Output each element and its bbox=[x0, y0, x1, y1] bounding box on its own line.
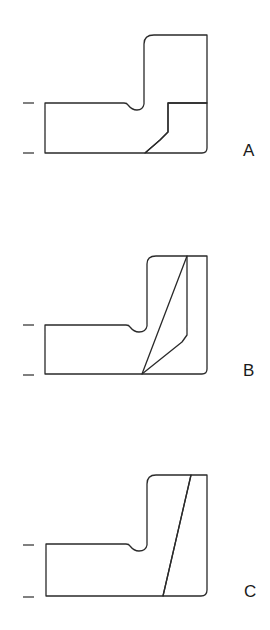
hatched-section bbox=[45, 256, 187, 374]
hatched-section bbox=[46, 475, 191, 596]
view-label-c: C bbox=[244, 582, 256, 601]
view-label-a: A bbox=[243, 141, 255, 160]
hatched-section bbox=[45, 35, 207, 153]
unhatched-region bbox=[145, 103, 207, 153]
view-label-b: B bbox=[243, 361, 254, 380]
view-a: A bbox=[23, 35, 255, 160]
view-c: C bbox=[23, 475, 256, 601]
unhatched-region bbox=[163, 475, 207, 596]
unhatched-region bbox=[142, 256, 207, 374]
seal-cross-sections-diagram: A B C bbox=[0, 0, 270, 630]
view-b: B bbox=[23, 256, 254, 380]
